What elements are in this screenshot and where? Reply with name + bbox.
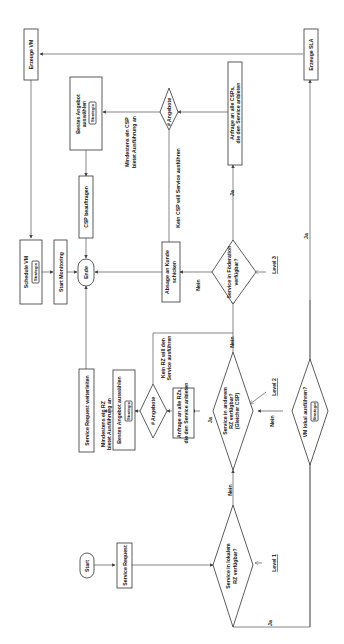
start-monitoring-label: Start Monitoring [58,252,64,292]
assign-csp-label: CSP beauftragen [83,186,89,228]
vm-strategy-label: Strategie [312,402,317,421]
label-ja-other: Ja [207,417,213,423]
ask-rzs-label-2: die den Service anbieten [183,383,189,444]
levels: Level 1 Level 2 Level 3 [271,256,277,572]
start-label: Start [84,560,90,572]
forward-request-label: Service Request weiterleiten [84,375,90,445]
offers-csp-label: # Angebote [166,98,172,126]
label-nein-other: Nein [229,336,235,347]
label-nein-local: Nein [227,484,233,495]
reject-label-2: schicken [171,261,177,283]
best-offer-csp-label-2: auswählen [81,101,87,128]
label-min-one-rz-2: bietet Ausführung an [106,398,112,450]
offers-rz-label: # Angebote [150,397,156,425]
schedule-vm-strategy-label: Strategie [33,262,38,281]
label-ja-vm: Ja [303,233,309,239]
level2-pointer [250,392,266,404]
schedule-vm-label: Schedule VM [23,256,29,288]
vm-local-decision [292,359,328,465]
reject-label-1: Absage an Kunde [164,250,170,294]
label-ja-fed: Ja [229,190,235,196]
create-sla-label: Erzeuge SLA [308,38,314,70]
other-rz-label-3: (Gleicher CSP) [234,393,240,430]
level-3-label: Level 3 [271,256,277,274]
label-nein-vm: Nein [269,415,275,426]
level-1-label: Level 1 [271,554,277,572]
local-rz-label-1: Service in lokalem [225,543,231,589]
label-min-one-csp-2: bietet Ausführung an [131,116,137,168]
best-offer-rz-label: Bestes Angebot auswählen [116,376,122,443]
vm-local-label: VM lokal ausführen? [302,387,308,438]
ask-csps-label-2: die den Service anbieten [235,83,241,144]
end-label: Ende [83,266,89,279]
label-no-rz-2: Service ausführen [166,336,172,381]
best-offer-csp-strategy-label: Strategie [90,103,95,122]
federation-label-1: Service in Föderation [226,246,232,299]
federation-label-2: verfügbar? [233,258,239,285]
ask-rzs-label-1: Anfrage an alle RZs, [176,388,182,438]
flowchart: Start Service Request Service in lokalem… [0,0,344,644]
local-rz-label-2: RZ verfügbar? [232,548,238,583]
ask-csps-label-1: Anfrage an alle CSPs, [229,86,235,140]
create-vm-label: Erzeuge VM [28,40,34,69]
label-nein-fed: Nein [195,279,201,290]
label-no-csp: Kein CSP will Service ausführen [175,148,181,227]
service-request-label: Service Request [122,545,128,586]
label-ja-local: Ja [267,620,273,626]
best-offer-rz-strategy-label: Strategie [126,401,131,420]
label-min-one-csp-1: Mindestens ein CSP [124,117,130,167]
nodes: Start Service Request Service in lokalem… [20,29,328,627]
level-2-label: Level 2 [271,378,277,396]
